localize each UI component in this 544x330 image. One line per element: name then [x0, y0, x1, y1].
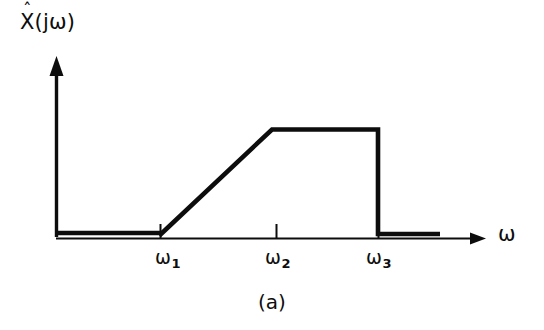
y-axis-label-hatted-x: ˆX [20, 12, 35, 33]
tick-label-omega-1-subscript: 1 [171, 256, 181, 271]
spectrum-plot [0, 0, 544, 330]
y-axis [50, 56, 64, 237]
tick-label-omega-2: ω2 [265, 248, 290, 270]
spectrum-curve [57, 130, 440, 235]
tick-label-omega-2-base: ω [265, 246, 281, 268]
tick-label-omega-3-subscript: 3 [382, 256, 392, 271]
y-axis-label: ˆX(jω) [20, 12, 75, 33]
y-axis-label-rest: (jω) [35, 10, 76, 34]
figure-container: ˆX(jω) ω ω1 ω2 ω3 (a) [0, 0, 544, 330]
y-axis-arrowhead [50, 56, 64, 76]
tick-label-omega-3: ω3 [366, 248, 391, 270]
x-axis-arrowhead [470, 233, 486, 245]
tick-label-omega-2-subscript: 2 [281, 256, 291, 271]
circumflex-accent-icon: ˆ [23, 2, 32, 19]
tick-label-omega-1: ω1 [155, 248, 180, 270]
figure-caption: (a) [0, 292, 544, 312]
tick-label-omega-1-base: ω [155, 246, 171, 268]
axis-ticks [161, 224, 379, 238]
spectrum-trace [57, 130, 440, 235]
tick-label-omega-3-base: ω [366, 246, 382, 268]
x-axis-label: ω [498, 224, 516, 245]
